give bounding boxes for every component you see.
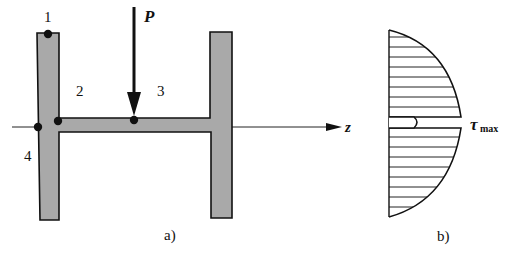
point-3-label: 3 [157,83,165,99]
point-2-marker [54,117,62,125]
top-stress-outline [389,30,461,117]
point-3-marker [130,116,138,124]
point-4-marker [34,123,42,131]
point-4-label: 4 [24,148,32,164]
top-hatch-lines [389,37,470,107]
z-axis-arrowhead-icon [326,123,342,131]
h-section-figure: 1 2 3 4 P z a) [12,7,351,244]
bottom-hatch-lines [389,137,470,207]
point-2-label: 2 [76,83,84,99]
axis-label-z: z [344,119,351,135]
figure-a-caption: a) [164,227,176,244]
web-stress-notch [389,117,417,128]
figure-canvas: 1 2 3 4 P z a) [0,0,517,255]
shear-stress-diagram: τ max b) [389,30,498,245]
tau-max-subscript: max [480,123,498,134]
figure-b-caption: b) [437,228,450,245]
load-label-p: P [143,7,155,26]
bottom-stress-outline [389,128,461,217]
point-1-marker [44,30,52,38]
load-arrow-head-icon [127,92,141,116]
tau-max-symbol: τ [470,115,478,134]
point-1-label: 1 [44,9,52,25]
